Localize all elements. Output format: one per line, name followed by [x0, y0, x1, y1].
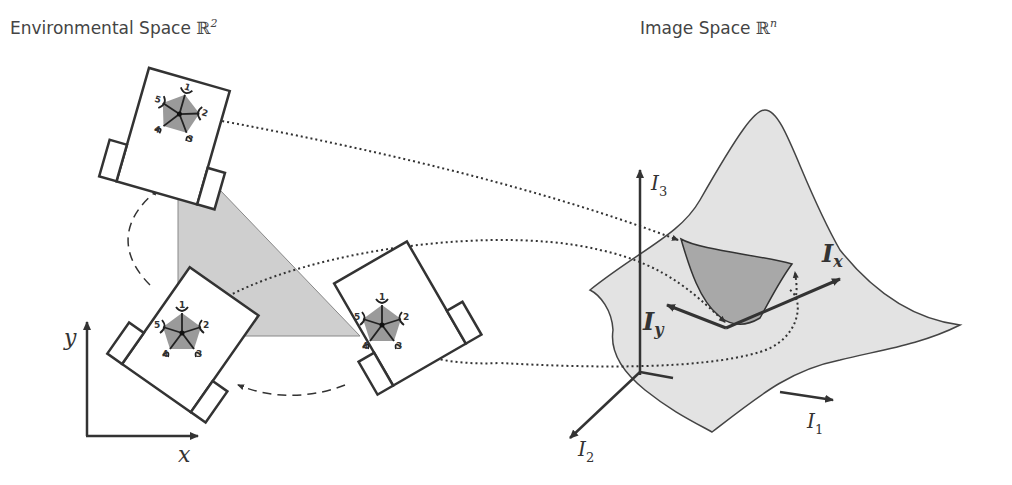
svg-text:5: 5 — [354, 312, 360, 322]
svg-text:3: 3 — [196, 349, 202, 359]
axis-label-i2: I2 — [577, 437, 594, 465]
axis-label-i1: I1 — [806, 409, 823, 437]
svg-text:5: 5 — [154, 320, 160, 330]
axis-label-y: y — [63, 325, 77, 350]
svg-text:2: 2 — [403, 312, 409, 322]
gradient-label-ix: Ix — [821, 239, 843, 271]
robot-pose-1: 12345 — [99, 63, 247, 210]
svg-text:4: 4 — [162, 349, 168, 359]
svg-text:1: 1 — [379, 292, 385, 302]
svg-text:4: 4 — [362, 341, 368, 351]
diagram-canvas: I3 I1 I2 Ix Iy 12345 12345 12345 — [0, 0, 1012, 485]
dotted-mapping-line-1 — [178, 113, 678, 240]
svg-text:3: 3 — [396, 341, 402, 351]
dashed-transition-arrow-1 — [128, 190, 158, 285]
dashed-transition-arrow-2 — [238, 385, 345, 395]
axis-label-i3: I3 — [650, 171, 667, 199]
svg-text:2: 2 — [203, 320, 209, 330]
svg-text:1: 1 — [179, 300, 185, 310]
axis-label-x: x — [178, 442, 191, 467]
